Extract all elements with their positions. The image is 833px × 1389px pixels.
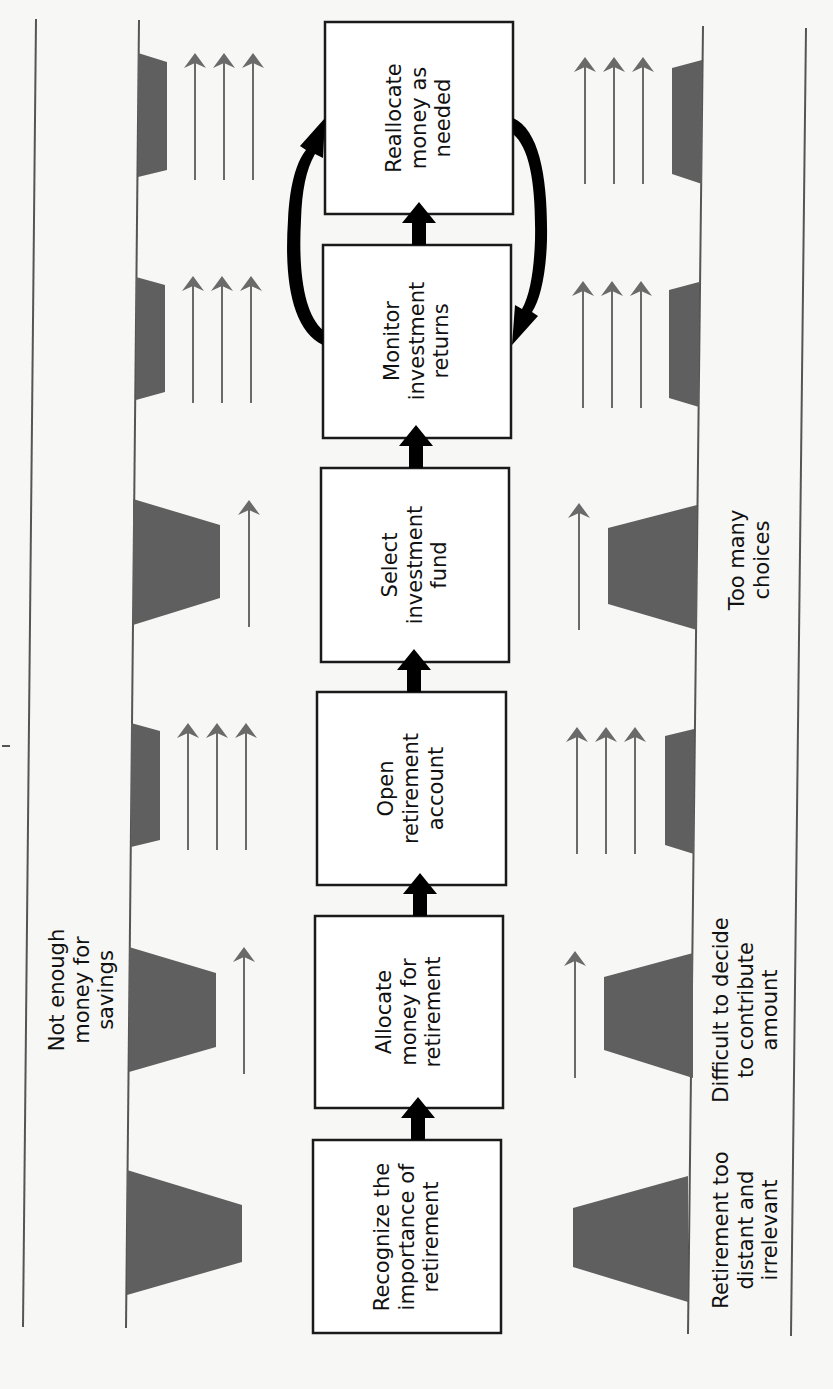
barrier-right-step5 (669, 282, 699, 407)
force-arrow-icon (574, 57, 596, 184)
barrier-label-difficult-to-decide: Difficult to decide to contribute amount (706, 905, 786, 1115)
force-arrow-icon (213, 53, 235, 180)
barrier-left-step4 (133, 499, 220, 625)
barrier-right-step1 (573, 1176, 688, 1302)
force-arrow-icon (235, 723, 257, 850)
force-arrow-icon (601, 281, 623, 408)
force-arrow-icon (240, 276, 262, 403)
step-label-3: Open retirement account (317, 692, 506, 885)
force-arrow-icon (566, 727, 588, 854)
force-arrow-icon (568, 503, 590, 630)
barrier-right-step3 (665, 729, 694, 854)
barrier-left-step2 (129, 947, 216, 1072)
force-arrow-icon (184, 53, 206, 180)
barrier-label-not-enough-money: Not enough money for savings (42, 900, 122, 1080)
force-arrow-icon (564, 951, 586, 1078)
force-arrow-icon (206, 723, 228, 850)
outer-left-rail (23, 19, 36, 1327)
loop-arrow-right-icon (512, 118, 547, 345)
barrier-right-step2 (604, 953, 693, 1078)
barrier-right-step4 (608, 505, 697, 630)
step-label-2: Allocate money for retirement (315, 916, 503, 1108)
force-arrow-icon (182, 276, 204, 403)
force-arrow-icon (595, 727, 617, 854)
force-arrow-icon (632, 57, 654, 184)
outer-right-rail (791, 28, 806, 1336)
barriers-left (127, 53, 242, 1295)
force-arrow-icon (238, 500, 260, 627)
barrier-right-step6 (672, 60, 702, 184)
step-label-4: Select investment fund (321, 468, 509, 662)
barrier-left-step3 (131, 723, 160, 847)
step-label-5: Monitor investment returns (323, 245, 511, 438)
step-label-6: Reallocate money as needed (325, 22, 513, 214)
force-arrow-icon (233, 947, 255, 1074)
force-arrow-icon (211, 276, 233, 403)
force-arrow-icon (630, 281, 652, 408)
force-arrow-icon (603, 57, 625, 184)
barrier-label-retirement-too-distant: Retirement too distant and irrelevant (706, 1130, 786, 1330)
barrier-left-step1 (127, 1170, 242, 1295)
barrier-left-step6 (138, 53, 167, 177)
barrier-left-step5 (136, 277, 165, 400)
force-arrow-icon (624, 727, 646, 854)
inner-left-rail (126, 20, 139, 1328)
barrier-label-too-many-choices: Too many choices (720, 500, 780, 620)
force-arrow-icon (177, 723, 199, 850)
force-arrow-icon (242, 53, 264, 180)
loop-arrow-left-icon (287, 118, 325, 345)
barriers-right (573, 60, 702, 1302)
force-arrow-icon (572, 281, 594, 408)
step-label-1: Recognize the importance of retirement (313, 1141, 501, 1334)
stray-mark (2, 745, 10, 747)
inner-right-rail (688, 26, 703, 1334)
